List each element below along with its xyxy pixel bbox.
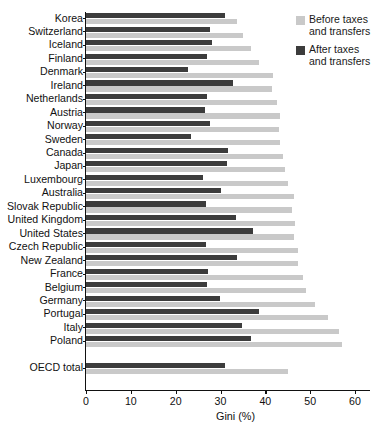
x-axis-tick-label: 0: [71, 395, 101, 407]
chart-row: New Zealand: [0, 254, 385, 267]
x-axis-tick-label: 10: [116, 395, 146, 407]
bar-before-taxes: [86, 329, 339, 334]
chart-row: Austria: [0, 106, 385, 119]
bar-before-taxes: [86, 100, 277, 105]
category-label: Canada: [0, 146, 83, 159]
chart-row-spacer: [0, 348, 385, 361]
bar-before-taxes: [86, 127, 279, 132]
bar-before-taxes: [86, 288, 306, 293]
category-label: Belgium: [0, 281, 83, 294]
category-label: Sweden: [0, 133, 83, 146]
category-label: Australia: [0, 186, 83, 199]
bar-before-taxes: [86, 369, 288, 374]
bar-before-taxes: [86, 302, 315, 307]
bar-after-taxes: [86, 67, 188, 72]
bar-before-taxes: [86, 86, 272, 91]
gini-bar-chart: Before taxes and transfers After taxes a…: [0, 0, 385, 429]
chart-row: OECD total: [0, 362, 385, 375]
bar-after-taxes: [86, 13, 225, 18]
bar-before-taxes: [86, 342, 342, 347]
bar-after-taxes: [86, 228, 253, 233]
chart-row: Ireland: [0, 79, 385, 92]
bar-before-taxes: [86, 248, 298, 253]
bar-after-taxes: [86, 336, 251, 341]
x-axis-tick-label: 40: [250, 395, 280, 407]
bar-before-taxes: [86, 167, 285, 172]
bar-after-taxes: [86, 80, 233, 85]
bar-before-taxes: [86, 140, 280, 145]
x-axis-tick-label: 50: [295, 395, 325, 407]
x-axis-tick: [131, 391, 132, 394]
chart-row: Slovak Republic: [0, 200, 385, 213]
category-label: New Zealand: [0, 254, 83, 267]
bar-after-taxes: [86, 323, 242, 328]
bar-after-taxes: [86, 161, 227, 166]
bar-before-taxes: [86, 60, 259, 65]
category-label: Austria: [0, 106, 83, 119]
chart-row: France: [0, 268, 385, 281]
bar-after-taxes: [86, 121, 210, 126]
bar-after-taxes: [86, 40, 212, 45]
chart-row: Iceland: [0, 39, 385, 52]
chart-row: Finland: [0, 52, 385, 65]
bar-before-taxes: [86, 315, 328, 320]
category-label: United States: [0, 227, 83, 240]
bar-after-taxes: [86, 215, 236, 220]
bar-before-taxes: [86, 181, 288, 186]
chart-row: Germany: [0, 294, 385, 307]
chart-row: Czech Republic: [0, 241, 385, 254]
bar-before-taxes: [86, 46, 251, 51]
bar-after-taxes: [86, 242, 206, 247]
bar-before-taxes: [86, 275, 303, 280]
bar-after-taxes: [86, 255, 237, 260]
category-label: Finland: [0, 52, 83, 65]
bar-before-taxes: [86, 207, 292, 212]
bar-before-taxes: [86, 154, 283, 159]
chart-row: Portugal: [0, 308, 385, 321]
category-label: Netherlands: [0, 92, 83, 105]
chart-row: Sweden: [0, 133, 385, 146]
bar-after-taxes: [86, 27, 210, 32]
category-label: Iceland: [0, 38, 83, 51]
x-axis-tick-label: 60: [340, 395, 370, 407]
category-label: OECD total: [0, 361, 83, 374]
bar-after-taxes: [86, 363, 225, 368]
x-axis-tick-label: 20: [161, 395, 191, 407]
chart-row: Luxembourg: [0, 173, 385, 186]
bar-after-taxes: [86, 269, 208, 274]
bar-before-taxes: [86, 19, 237, 24]
chart-row: Switzerland: [0, 25, 385, 38]
category-label: Switzerland: [0, 25, 83, 38]
x-axis-tick: [86, 391, 87, 394]
chart-row: Belgium: [0, 281, 385, 294]
x-axis-title: Gini (%): [0, 410, 385, 422]
chart-row: United Kingdom: [0, 214, 385, 227]
bar-after-taxes: [86, 148, 228, 153]
chart-row: Denmark: [0, 66, 385, 79]
bar-before-taxes: [86, 234, 294, 239]
x-axis-tick: [221, 391, 222, 394]
bar-after-taxes: [86, 282, 207, 287]
chart-row: Poland: [0, 335, 385, 348]
bar-after-taxes: [86, 107, 205, 112]
category-label: Ireland: [0, 79, 83, 92]
category-label: Poland: [0, 334, 83, 347]
x-axis-tick: [310, 391, 311, 394]
chart-row: Japan: [0, 160, 385, 173]
category-label: France: [0, 267, 83, 280]
bar-before-taxes: [86, 33, 243, 38]
x-axis-tick: [176, 391, 177, 394]
bar-before-taxes: [86, 113, 280, 118]
x-axis-tick: [355, 391, 356, 394]
chart-row: Norway: [0, 120, 385, 133]
bar-after-taxes: [86, 201, 206, 206]
category-label: Korea: [0, 12, 83, 25]
bar-after-taxes: [86, 134, 191, 139]
bar-after-taxes: [86, 296, 220, 301]
chart-row: Australia: [0, 187, 385, 200]
y-axis-line: [85, 12, 86, 391]
bar-after-taxes: [86, 309, 259, 314]
chart-row: United States: [0, 227, 385, 240]
x-axis-line: [85, 390, 370, 391]
category-label: Denmark: [0, 65, 83, 78]
